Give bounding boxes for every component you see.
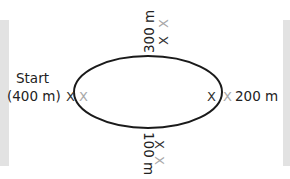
top-marker-dark: X [156, 36, 171, 45]
right-marker-light: X [223, 89, 232, 104]
bottom-marker-dark: X [152, 140, 167, 149]
start-distance-label: (400 m) [7, 88, 61, 104]
start-marker-dark: X [66, 89, 75, 104]
start-marker-light: X [79, 89, 88, 104]
oval-track [74, 56, 222, 128]
distance-label-300m: 300 m [141, 10, 157, 53]
start-label: Start [16, 70, 49, 86]
bottom-marker-light: X [152, 156, 167, 165]
distance-label-200m: 200 m [235, 88, 278, 104]
top-marker-light: X [156, 19, 171, 28]
right-marker-dark: X [207, 89, 216, 104]
distance-label-100m: 100 m [141, 132, 157, 175]
track-diagram: Start (400 m) X X X X 200 m 300 m X X 10… [0, 0, 290, 179]
